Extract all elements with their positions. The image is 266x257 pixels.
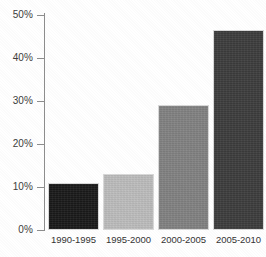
- x-label-1995-2000: 1995-2000: [103, 234, 154, 245]
- y-tick-mark: [37, 230, 45, 231]
- x-label-1990-1995: 1990-1995: [48, 234, 99, 245]
- plot-area: [44, 15, 266, 230]
- bar-chart: 0% 10% 20% 30% 40% 50% 1: [0, 0, 266, 257]
- y-tick-label: 50%: [13, 9, 33, 20]
- bar-1995-2000: [103, 174, 154, 230]
- bar-series: [44, 15, 266, 230]
- x-label-2005-2010: 2005-2010: [213, 234, 264, 245]
- y-tick-label: 20%: [13, 138, 33, 149]
- y-tick-label: 40%: [13, 52, 33, 63]
- bar-1990-1995: [48, 183, 99, 230]
- x-axis-labels: 1990-1995 1995-2000 2000-2005 2005-2010: [44, 234, 266, 254]
- x-label-2000-2005: 2000-2005: [158, 234, 209, 245]
- y-tick-label: 30%: [13, 95, 33, 106]
- bar-2000-2005: [158, 105, 209, 230]
- bar-2005-2010: [213, 30, 264, 230]
- y-tick-label: 10%: [13, 181, 33, 192]
- y-tick-label: 0%: [18, 224, 33, 235]
